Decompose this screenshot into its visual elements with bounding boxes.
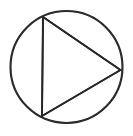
geometry-figure <box>0 0 133 136</box>
inscribed-triangle-outline <box>42 17 121 116</box>
triangle-vertical-edge <box>42 17 43 116</box>
triangle-lower-edge <box>42 70 121 116</box>
triangle-upper-edge <box>43 17 121 70</box>
figure-canvas <box>0 0 133 136</box>
circle-outline <box>11 11 123 123</box>
